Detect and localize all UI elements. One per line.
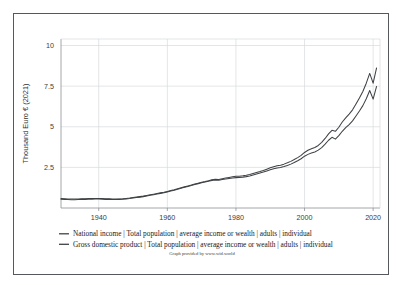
axis-lines — [61, 39, 380, 208]
legend-label: Gross domestic product | Total populatio… — [73, 240, 333, 249]
series-line-gdp — [61, 68, 377, 199]
y-axis-title: Thousand Euro € (2021) — [21, 83, 30, 163]
chart-credit: Graph provided by www.wid.world — [169, 251, 235, 256]
series-line-national-income — [61, 86, 377, 199]
x-tick-label: 1980 — [228, 213, 244, 222]
y-tick-label: 5 — [50, 122, 54, 131]
series-group — [61, 68, 377, 200]
y-tick-label: 2.5 — [44, 163, 54, 172]
x-tick-label: 1960 — [159, 213, 175, 222]
x-tick-label: 1940 — [91, 213, 107, 222]
y-tick-label: 10 — [46, 41, 54, 50]
chart-frame: 2.557.51019401960198020002020Thousand Eu… — [13, 13, 389, 275]
x-tick-label: 2020 — [365, 213, 381, 222]
y-tick-label: 7.5 — [44, 82, 54, 91]
x-tick-label: 2000 — [297, 213, 313, 222]
y-tick-labels: 2.557.510 — [44, 41, 54, 172]
legend: National income | Total population | ave… — [59, 229, 333, 249]
legend-label: National income | Total population | ave… — [73, 229, 312, 238]
line-chart: 2.557.51019401960198020002020Thousand Eu… — [14, 14, 390, 276]
chart-plot-container: 2.557.51019401960198020002020Thousand Eu… — [14, 14, 390, 276]
gridlines — [61, 39, 380, 208]
x-tick-labels: 19401960198020002020 — [91, 208, 381, 222]
